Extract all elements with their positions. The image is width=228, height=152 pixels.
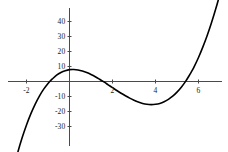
- cubic-curve: [15, 0, 219, 152]
- plot-canvas: [0, 0, 228, 152]
- x-tick-label: 6: [197, 87, 201, 95]
- y-tick-label: -10: [55, 93, 66, 101]
- cubic-function-plot: -2246 40302010-10-20-30: [0, 0, 228, 152]
- y-tick-label: 40: [58, 18, 66, 26]
- y-tick-label: -20: [55, 108, 66, 116]
- x-tick-label: 4: [154, 87, 158, 95]
- x-tick-label: 2: [111, 87, 115, 95]
- x-tick-label: -2: [23, 87, 30, 95]
- y-tick-label: 10: [58, 63, 66, 71]
- y-tick-label: 20: [58, 48, 66, 56]
- y-tick-label: 30: [58, 33, 66, 41]
- y-tick-label: -30: [55, 123, 66, 131]
